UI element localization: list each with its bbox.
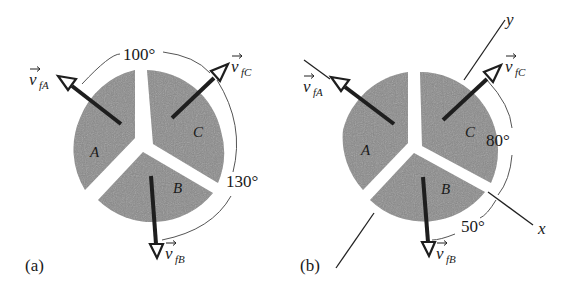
svg-text:fC: fC: [241, 66, 252, 78]
explosion-velocity-diagram: A B C 100° 130° v fA v fC: [0, 0, 585, 302]
x-axis: [488, 192, 533, 225]
angle-label-130: 130°: [226, 172, 258, 191]
piece-c-label: C: [193, 124, 204, 140]
piece-b-label: B: [441, 181, 450, 197]
angle-label-100: 100°: [123, 45, 155, 64]
svg-text:fB: fB: [446, 253, 456, 265]
vector-vfC-label: v fC: [505, 54, 526, 79]
piece-c-label: C: [465, 124, 476, 140]
svg-text:v: v: [231, 57, 239, 76]
svg-text:v: v: [505, 57, 513, 76]
piece-a-label: A: [89, 144, 100, 160]
angle-arc-50b: [432, 234, 455, 240]
panel-b: y x A B C 80° 50°: [300, 10, 546, 275]
angle-arc-100b: [163, 52, 210, 73]
vector-vfA-label: v fA: [303, 74, 323, 99]
svg-text:fB: fB: [175, 253, 185, 265]
angle-label-50: 50°: [461, 217, 485, 236]
svg-text:fA: fA: [39, 79, 49, 91]
piece-b-label: B: [173, 180, 182, 196]
angle-arc-80b: [498, 155, 512, 195]
vector-vfA-label: v fA: [29, 67, 49, 92]
svg-text:v: v: [165, 244, 173, 263]
svg-text:fC: fC: [515, 66, 526, 78]
vector-vfB-label: v fB: [436, 241, 456, 266]
svg-text:fA: fA: [313, 86, 323, 98]
vector-vfC-label: v fC: [231, 54, 252, 79]
svg-text:v: v: [436, 244, 444, 263]
svg-text:v: v: [303, 77, 311, 96]
y-axis-lower: [336, 213, 374, 268]
panel-a: A B C 100° 130° v fA v fC: [25, 45, 258, 275]
angle-label-80: 80°: [486, 131, 510, 150]
vector-vfB-label: v fB: [165, 241, 185, 266]
piece-a-label: A: [360, 142, 371, 158]
angle-arc-50: [480, 200, 496, 218]
y-axis-label: y: [504, 10, 514, 29]
svg-text:v: v: [29, 70, 37, 89]
panel-a-label: (a): [25, 256, 44, 275]
panel-b-label: (b): [300, 256, 320, 275]
x-axis-label: x: [537, 219, 546, 238]
